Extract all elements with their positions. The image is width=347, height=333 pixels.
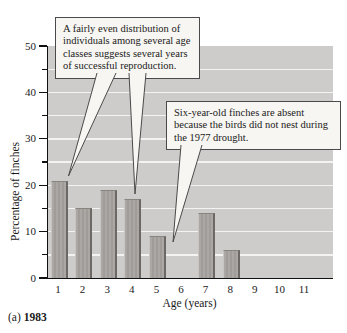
x-tick-label-11: 11 xyxy=(293,284,315,295)
bar-age-1 xyxy=(51,181,68,278)
y-tick-major-0 xyxy=(39,277,47,278)
y-tick-major-50 xyxy=(39,45,47,46)
callout-six-year-absent: Six-year-old finches are absent because … xyxy=(166,101,341,150)
y-tick-label-50: 50 xyxy=(14,41,36,52)
y-tick-minor-35 xyxy=(42,115,47,116)
callout-even-distribution: A fairly even distribution of individual… xyxy=(55,17,200,79)
x-tick-label-3: 3 xyxy=(96,284,118,295)
x-tick-label-9: 9 xyxy=(244,284,266,295)
x-axis-title: Age (years) xyxy=(47,297,332,309)
y-tick-minor-15 xyxy=(42,208,47,209)
x-tick-label-5: 5 xyxy=(145,284,167,295)
x-tick-label-7: 7 xyxy=(195,284,217,295)
panel-year: 1983 xyxy=(24,311,47,323)
y-tick-label-20: 20 xyxy=(14,180,36,191)
y-tick-major-20 xyxy=(39,185,47,186)
y-tick-label-40: 40 xyxy=(14,87,36,98)
panel-caption: (a) 1983 xyxy=(8,311,47,323)
bar-age-3 xyxy=(100,190,117,278)
y-tick-major-40 xyxy=(39,92,47,93)
bar-age-2 xyxy=(75,208,92,278)
plot-area xyxy=(47,46,333,279)
bar-age-7 xyxy=(198,213,215,278)
x-tick-label-10: 10 xyxy=(268,284,290,295)
gridline-20 xyxy=(48,185,333,186)
x-tick-label-1: 1 xyxy=(47,284,69,295)
y-tick-minor-45 xyxy=(42,69,47,70)
age-distribution-figure: Percentage of finches 01020304050 123456… xyxy=(0,0,347,333)
y-tick-minor-25 xyxy=(42,161,47,162)
bar-age-5 xyxy=(149,236,166,278)
y-tick-label-0: 0 xyxy=(14,273,36,284)
x-tick-label-8: 8 xyxy=(219,284,241,295)
gridline-25 xyxy=(48,161,333,162)
x-tick-label-2: 2 xyxy=(72,284,94,295)
x-tick-label-4: 4 xyxy=(121,284,143,295)
bar-age-4 xyxy=(124,199,141,278)
panel-label: (a) xyxy=(8,311,21,323)
bar-age-8 xyxy=(223,250,240,278)
y-tick-major-30 xyxy=(39,138,47,139)
gridline-40 xyxy=(48,92,333,93)
y-tick-label-30: 30 xyxy=(14,133,36,144)
y-tick-major-10 xyxy=(39,231,47,232)
x-tick-label-6: 6 xyxy=(170,284,192,295)
y-tick-minor-5 xyxy=(42,254,47,255)
y-tick-label-10: 10 xyxy=(14,226,36,237)
